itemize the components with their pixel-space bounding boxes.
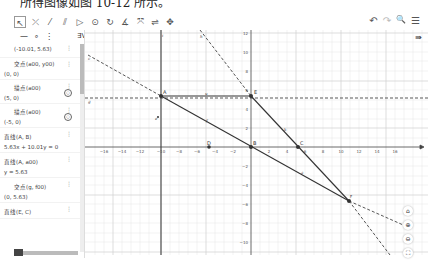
redo-icon[interactable]: ↷ [383,15,391,26]
svg-text:−6: −6 [242,202,248,207]
entry-label: 交点(g, f00) [14,183,84,191]
algebra-entry[interactable]: 交点(g, f00) (0, 5.63) ⋮ [0,178,84,203]
more-icon[interactable]: ⋮ [66,205,72,212]
grid-minor [85,30,428,255]
svg-text:B: B [253,140,257,146]
page-caption: 所得图像如图 10-12 所示。 [20,0,170,10]
svg-text:12: 12 [243,31,249,36]
point-F [347,199,351,203]
right-toolbar: ↶ ↷ 🔍 ☰ [369,15,420,26]
home-button[interactable]: ⌂ [403,206,413,216]
undo-icon[interactable]: ↶ [369,15,377,26]
entry-label: 描点(a00) [14,84,84,92]
line-tool-button[interactable]: ⁄ [44,16,56,28]
algebra-panel: — ∘ ⋮ ∃V (-10.01, 5.63) ⋮ 交点(a00, y00) (… [0,30,85,258]
point-style-icon[interactable]: ∘ [34,32,39,41]
toolbar: ↖ ⤫ ⁄ ⫽ ▷ ⊙ ↻ ∡ ⤧ ⇌ ✥ [14,15,176,29]
svg-text:−10: −10 [157,149,166,154]
reflect-tool-button[interactable]: ⤧ [134,16,146,28]
menu-icon[interactable]: ☰ [411,15,420,26]
svg-text:g: g [88,99,91,104]
more-icon[interactable]: ⋮ [66,130,72,137]
visibility-toggle[interactable]: ○ [64,89,72,97]
entry-value: (5, 0) [4,95,84,101]
slider-tool-button[interactable]: ⇌ [149,16,161,28]
graphics-view[interactable]: −16−14−12 −10−8−6 −4−22 468 10121416 121… [85,30,428,255]
more-icon[interactable]: ⋮ [66,60,72,67]
algebra-entry[interactable]: 描点(a00) (5, 0) ⋮ ○ [0,80,84,104]
dashed-lines [85,30,428,255]
line-b-extension [349,201,410,228]
svg-text:a: a [301,170,304,175]
svg-text:14: 14 [374,149,380,154]
move-view-tool-button[interactable]: ✥ [164,16,176,28]
svg-text:−2: −2 [242,164,248,169]
polygon-tool-button[interactable]: ▷ [74,16,86,28]
visibility-toggle[interactable]: ○ [64,113,72,121]
more-icon[interactable]: ⋮ [66,44,72,51]
svg-text:−2: −2 [230,149,236,154]
svg-text:u: u [205,91,208,96]
keyboard-icon[interactable] [14,249,23,256]
entry-label: 直线(A, a00) [4,158,84,166]
svg-text:−12: −12 [136,149,145,154]
fullscreen-button[interactable]: ⛶ [403,248,413,258]
svg-text:−14: −14 [118,149,127,154]
algebra-header: — ∘ ⋮ ∃V [0,30,84,42]
algebra-entry[interactable]: 描点(a00) (-5, 0) ⋮ ○ [0,104,84,128]
more-icon[interactable]: ⋮ [66,106,72,113]
entry-value: (-5, 0) [4,119,84,125]
circle-three-points-tool-button[interactable]: ↻ [104,16,116,28]
algebra-entry[interactable]: 直线(A, B) 5.63x + 10.01y = 0 ⋮ [0,128,84,153]
svg-text:c: c [88,56,91,61]
line-style-icon[interactable]: — [20,32,28,41]
algebra-vertical-scrollbar[interactable] [80,44,84,252]
algebra-entry[interactable]: (-10.01, 5.63) ⋮ [0,42,84,58]
svg-text:−8: −8 [242,221,248,226]
more-icon[interactable]: ⋮ [45,32,53,41]
svg-text:−4: −4 [212,149,218,154]
svg-text:8: 8 [245,69,248,74]
svg-text:C: C [300,140,304,146]
algebra-entry[interactable]: 直线(E, C) ⋮ [0,203,84,219]
entry-value: 5.63x + 10.01y = 0 [4,144,84,150]
svg-text:−4: −4 [242,183,248,188]
svg-text:−10: −10 [240,240,249,245]
algebra-entry[interactable]: 交点(a00, y00) (0, 0) ⋮ [0,58,84,80]
more-icon[interactable]: ⋮ [66,180,72,187]
entry-value: y = 5.63 [4,169,84,175]
algebra-horizontal-scrollbar[interactable] [14,251,78,255]
svg-text:−6: −6 [194,149,200,154]
x-tick-labels: −16−14−12 −10−8−6 −4−22 468 10121416 [100,149,398,154]
svg-text:−16: −16 [100,149,109,154]
line-j-extension [349,201,390,255]
more-icon[interactable]: ⋮ [66,82,72,89]
move-tool-button[interactable]: ↖ [14,16,26,28]
svg-text:E: E [254,89,257,95]
point-labels: A E B C D F [163,89,353,199]
svg-text:h: h [200,34,203,39]
search-icon[interactable]: 🔍 [396,15,406,26]
entry-label: 直线(E, C) [4,208,84,216]
line-h [200,30,251,96]
svg-text:2: 2 [268,149,271,154]
angle-tool-button[interactable]: ∡ [119,16,131,28]
zoom-in-button[interactable]: ⊕ [403,220,413,230]
parallel-tool-button[interactable]: ⫽ [59,16,71,28]
zoom-out-button[interactable]: ⊖ [403,234,413,244]
style-bar-toggle[interactable]: ⇛ [415,33,422,42]
sort-icon[interactable]: ∃V [77,32,85,40]
svg-text:12: 12 [356,149,362,154]
point-tool-button[interactable]: ⤫ [29,16,41,28]
svg-text:i: i [162,33,164,38]
algebra-entry[interactable]: 直线(A, a00) y = 5.63 ⋮ [0,153,84,178]
more-icon[interactable]: ⋮ [66,155,72,162]
circle-tool-button[interactable]: ⊙ [89,16,101,28]
entry-label: (-10.01, 5.63) [14,46,84,52]
svg-text:A: A [163,89,167,95]
entry-label: 直线(A, B) [4,133,84,141]
scroll-thumb[interactable] [80,44,84,94]
graph-canvas[interactable]: −16−14−12 −10−8−6 −4−22 468 10121416 121… [85,30,428,255]
svg-text:16: 16 [392,149,398,154]
entry-label: 交点(a00, y00) [14,60,84,68]
